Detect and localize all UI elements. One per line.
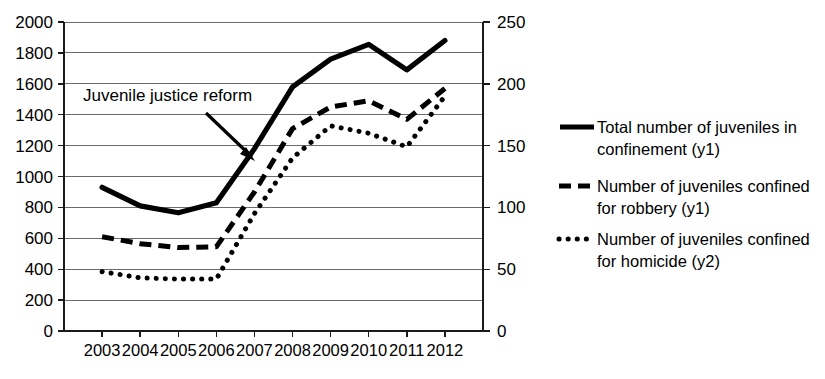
y1-tick-label: 1600 xyxy=(15,75,53,94)
legend-label-homicide-line1: Number of juveniles confined xyxy=(597,230,810,248)
line-chart-canvas: 0200400600800100012001400160018002000 05… xyxy=(0,0,825,379)
y2-tick-label: 200 xyxy=(497,75,525,94)
y2-tick-label: 0 xyxy=(497,322,506,341)
y2-tick-label: 250 xyxy=(497,13,525,32)
y1-tick-label: 600 xyxy=(25,229,53,248)
legend-label-total-confinement-line1: Total number of juveniles in xyxy=(597,118,797,136)
y1-tick-label: 800 xyxy=(25,198,53,217)
x-tick-label: 2011 xyxy=(389,341,424,359)
x-tick-labels-group: 2003200420052006200720082009201020112012 xyxy=(84,341,464,359)
chart-figure: 0200400600800100012001400160018002000 05… xyxy=(0,0,825,379)
x-tick-label: 2007 xyxy=(236,341,273,359)
y1-tick-label: 2000 xyxy=(15,13,53,32)
x-tick-label: 2006 xyxy=(198,341,235,359)
y1-tick-label: 0 xyxy=(44,322,53,341)
y1-tick-label: 1400 xyxy=(15,106,53,125)
y1-tick-label: 1000 xyxy=(15,168,53,187)
annotation-label-juvenile-justice-reform: Juvenile justice reform xyxy=(83,86,252,105)
x-tick-label: 2008 xyxy=(274,341,311,359)
legend-label-robbery-line2: for robbery (y1) xyxy=(597,199,710,217)
y1-tick-label: 200 xyxy=(25,291,53,310)
legend-label-robbery-line1: Number of juveniles confined xyxy=(597,177,810,195)
y1-tick-label: 400 xyxy=(25,260,53,279)
y2-tick-label: 100 xyxy=(497,198,525,217)
legend-label-total-confinement-line2: confinement (y1) xyxy=(597,140,720,158)
x-tick-label: 2012 xyxy=(427,341,464,359)
legend-label-homicide-line2: for homicide (y2) xyxy=(597,252,720,270)
x-tick-label: 2009 xyxy=(312,341,349,359)
y2-tick-label: 150 xyxy=(497,137,525,156)
x-tick-label: 2004 xyxy=(122,341,159,359)
x-tick-label: 2010 xyxy=(350,341,387,359)
x-tick-label: 2005 xyxy=(160,341,197,359)
y2-tick-label: 50 xyxy=(497,260,516,279)
y1-tick-label: 1800 xyxy=(15,44,53,63)
y1-tick-label: 1200 xyxy=(15,137,53,156)
x-tick-label: 2003 xyxy=(84,341,121,359)
